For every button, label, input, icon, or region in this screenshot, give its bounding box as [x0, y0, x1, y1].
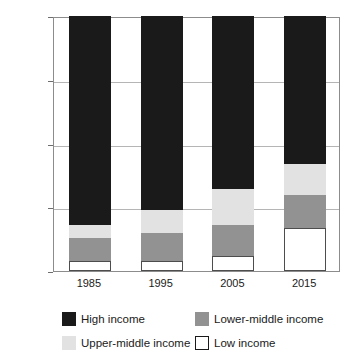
bar-segment [141, 16, 183, 210]
legend-item: Upper-middle income [62, 336, 195, 350]
bar-segment [141, 233, 183, 261]
legend-swatch-icon [195, 336, 209, 350]
bar-1995 [141, 16, 183, 271]
legend-label: Lower-middle income [214, 313, 323, 326]
legend-label: High income [81, 313, 145, 326]
bar-segment [141, 210, 183, 233]
x-axis-tick-label: 2015 [264, 277, 344, 289]
bar-segment [141, 261, 183, 271]
legend-label: Upper-middle income [81, 337, 190, 350]
legend-item: High income [62, 312, 195, 326]
bar-segment [69, 16, 111, 225]
bar-1985 [69, 16, 111, 271]
x-axis-tick-label: 1995 [121, 277, 201, 289]
bar-segment [69, 261, 111, 271]
x-axis-tick-label: 1985 [49, 277, 129, 289]
bar-2015 [284, 16, 326, 271]
legend-swatch-icon [195, 312, 209, 326]
bar-segment [212, 256, 254, 271]
legend-swatch-icon [62, 312, 76, 326]
plot-frame [53, 17, 340, 272]
x-axis-tick-label: 2005 [192, 277, 272, 289]
bar-2005 [212, 16, 254, 271]
legend-label: Low income [214, 337, 275, 350]
bar-segment [212, 189, 254, 225]
stacked-bar-chart: 0%25%50%75%100% 1985199520052015 High in… [0, 0, 352, 359]
plot-area: 0%25%50%75%100% 1985199520052015 [0, 0, 352, 296]
bar-segment [212, 16, 254, 189]
bar-segment [212, 225, 254, 256]
legend-swatch-icon [62, 336, 76, 350]
bar-segment [69, 225, 111, 238]
bar-segment [284, 16, 326, 164]
legend-item: Low income [195, 336, 340, 350]
bar-segment [284, 164, 326, 195]
chart-legend: High incomeLower-middle incomeUpper-midd… [62, 307, 340, 355]
y-axis-tick-mark [48, 272, 53, 273]
legend-item: Lower-middle income [195, 312, 340, 326]
bar-segment [284, 228, 326, 271]
bar-segment [69, 238, 111, 261]
bar-segment [284, 195, 326, 228]
